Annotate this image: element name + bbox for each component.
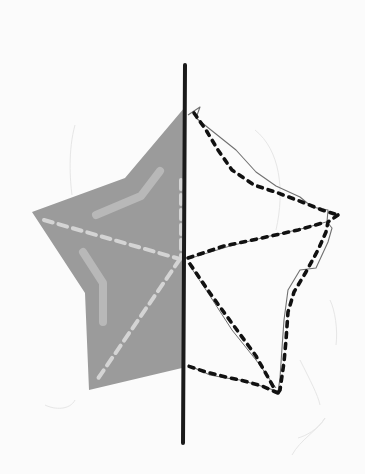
symmetry-diagram: Line symmetry exercise: half star reflec… xyxy=(0,0,365,474)
dotted-reflected-outline xyxy=(188,113,338,393)
mirror-line xyxy=(183,65,185,443)
shaded-half-star xyxy=(32,107,185,390)
diagram-svg xyxy=(0,0,365,474)
